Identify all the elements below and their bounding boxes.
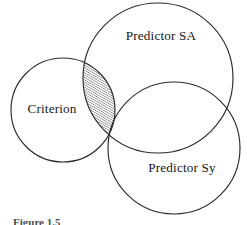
circle-predictor-sy[interactable]	[108, 82, 240, 214]
figure-caption: Figure 1.5	[13, 216, 60, 225]
label-predictor-sy: Predictor Sy	[148, 160, 216, 175]
venn-diagram-svg: Criterion Predictor SA Predictor Sy	[0, 0, 247, 225]
label-criterion: Criterion	[28, 101, 77, 116]
label-predictor-sa: Predictor SA	[126, 28, 197, 43]
figure-container: Criterion Predictor SA Predictor Sy Figu…	[0, 0, 247, 225]
